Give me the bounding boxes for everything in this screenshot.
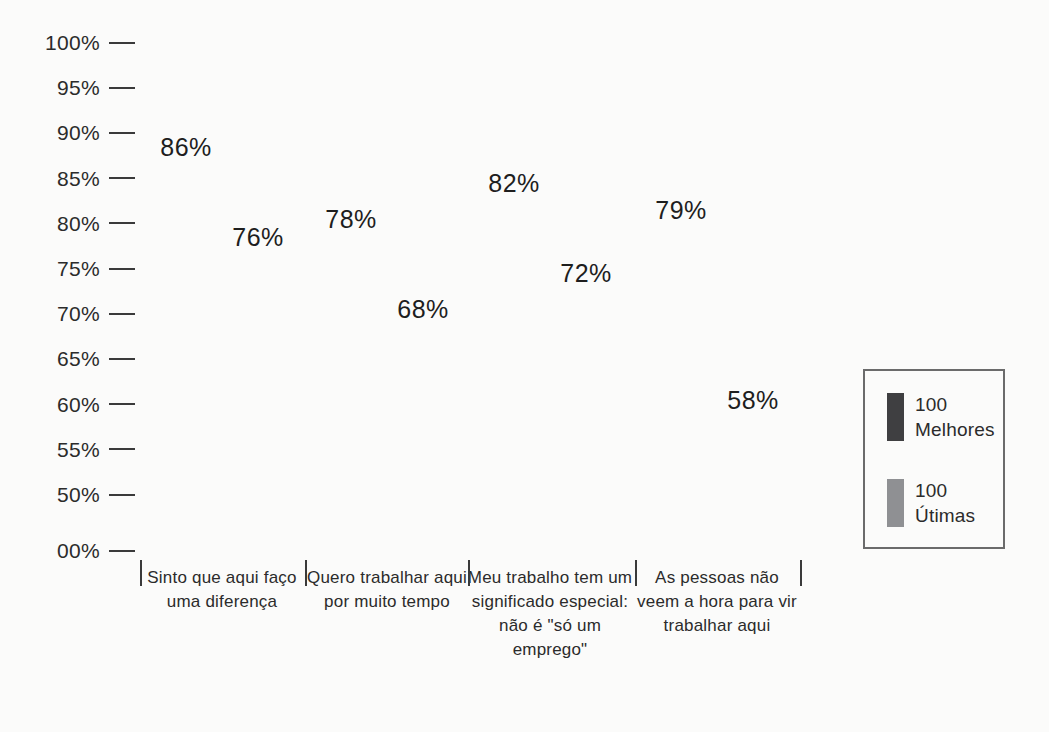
bar-value-label: 68% bbox=[397, 295, 449, 324]
y-axis-tick-label: 70% bbox=[57, 303, 109, 324]
x-axis-category-label: Sinto que aqui faço uma diferença bbox=[138, 566, 306, 614]
y-axis-tick-label: 75% bbox=[57, 258, 109, 279]
legend-label-melhores: 100 Melhores bbox=[915, 393, 995, 442]
y-axis-tick-mark bbox=[109, 313, 135, 315]
y-axis-tick-mark bbox=[109, 550, 135, 552]
bar-melhores[interactable]: 82% bbox=[478, 205, 550, 550]
x-axis-category-label: As pessoas não veem a hora para vir trab… bbox=[633, 566, 801, 638]
bar-utimas[interactable]: 68% bbox=[387, 331, 459, 550]
y-axis-tick: 70% bbox=[0, 313, 135, 314]
bar-group-bars: 79%58% bbox=[645, 32, 789, 550]
x-axis-separator-tick bbox=[305, 560, 307, 586]
y-axis-tick: 90% bbox=[0, 132, 135, 133]
y-axis-tick: 65% bbox=[0, 358, 135, 359]
x-axis-separator-tick bbox=[468, 560, 470, 586]
legend-item-utimas: 100 Útimas bbox=[887, 479, 975, 528]
y-axis-tick-mark bbox=[109, 403, 135, 405]
bar-group-bars: 86%76% bbox=[150, 32, 294, 550]
y-axis-tick-mark bbox=[109, 358, 135, 360]
y-axis-tick-mark bbox=[109, 132, 135, 134]
bar-utimas[interactable]: 58% bbox=[717, 422, 789, 550]
x-axis-separator-tick bbox=[140, 560, 142, 586]
y-axis-tick-mark bbox=[109, 448, 135, 450]
footer-ghost-text bbox=[0, 718, 1049, 732]
y-axis-tick-mark bbox=[109, 268, 135, 270]
x-axis-separator-tick bbox=[800, 560, 802, 586]
bar-group: 79%58% bbox=[645, 32, 789, 550]
bar-value-label: 72% bbox=[560, 259, 612, 288]
bar-melhores[interactable]: 79% bbox=[645, 232, 717, 550]
x-axis-category-label: Meu trabalho tem um significado especial… bbox=[466, 566, 634, 663]
bar-value-label: 86% bbox=[160, 133, 212, 162]
y-axis-tick-mark bbox=[109, 87, 135, 89]
y-axis-tick-mark bbox=[109, 494, 135, 496]
bar-value-label: 78% bbox=[325, 205, 377, 234]
y-axis-tick-label: 85% bbox=[57, 168, 109, 189]
bar-utimas[interactable]: 72% bbox=[550, 295, 622, 550]
y-axis-tick: 80% bbox=[0, 223, 135, 224]
light-swatch-icon bbox=[887, 479, 904, 527]
y-axis-tick-label: 65% bbox=[57, 348, 109, 369]
y-axis-tick-label: 100% bbox=[45, 32, 109, 53]
bar-group: 82%72% bbox=[478, 32, 622, 550]
bar-utimas[interactable]: 76% bbox=[222, 259, 294, 550]
y-axis-tick: 85% bbox=[0, 178, 135, 179]
bar-value-label: 79% bbox=[655, 196, 707, 225]
y-axis-tick-label: 50% bbox=[57, 484, 109, 505]
x-axis-separator-tick bbox=[635, 560, 637, 586]
dark-swatch-icon bbox=[887, 393, 904, 441]
bar-melhores[interactable]: 78% bbox=[315, 241, 387, 550]
bar-value-label: 82% bbox=[488, 169, 540, 198]
bar-group: 86%76% bbox=[150, 32, 294, 550]
bar-group-bars: 82%72% bbox=[478, 32, 622, 550]
legend-label-utimas: 100 Útimas bbox=[915, 479, 975, 528]
y-axis-tick-mark bbox=[109, 222, 135, 224]
y-axis-tick: 55% bbox=[0, 449, 135, 450]
y-axis-tick: 50% bbox=[0, 494, 135, 495]
plot-area: 86%76%78%68%82%72%79%58% bbox=[140, 0, 840, 600]
y-axis-tick: 00% bbox=[0, 550, 135, 551]
bar-value-label: 58% bbox=[727, 386, 779, 415]
bar-chart-figure: 100%95%90%85%80%75%70%65%60%55%50%00% 86… bbox=[0, 0, 1049, 732]
y-axis-tick-label: 00% bbox=[57, 540, 109, 561]
bar-group: 78%68% bbox=[315, 32, 459, 550]
legend-item-melhores: 100 Melhores bbox=[887, 393, 995, 442]
y-axis-tick: 75% bbox=[0, 268, 135, 269]
y-axis-tick-label: 80% bbox=[57, 213, 109, 234]
y-axis-tick-mark bbox=[109, 177, 135, 179]
bar-value-label: 76% bbox=[232, 223, 284, 252]
y-axis-tick: 95% bbox=[0, 87, 135, 88]
y-axis-tick-mark bbox=[109, 42, 135, 44]
y-axis-tick-label: 55% bbox=[57, 439, 109, 460]
y-axis-tick: 100% bbox=[0, 42, 135, 43]
y-axis-tick-label: 95% bbox=[57, 77, 109, 98]
chart-legend: 100 Melhores 100 Útimas bbox=[863, 369, 1005, 549]
x-axis-category-label: Quero trabalhar aqui por muito tempo bbox=[303, 566, 471, 614]
y-axis: 100%95%90%85%80%75%70%65%60%55%50%00% bbox=[0, 0, 150, 600]
y-axis-tick-label: 90% bbox=[57, 122, 109, 143]
y-axis-tick-label: 60% bbox=[57, 394, 109, 415]
bar-melhores[interactable]: 86% bbox=[150, 169, 222, 550]
bar-group-bars: 78%68% bbox=[315, 32, 459, 550]
y-axis-tick: 60% bbox=[0, 404, 135, 405]
